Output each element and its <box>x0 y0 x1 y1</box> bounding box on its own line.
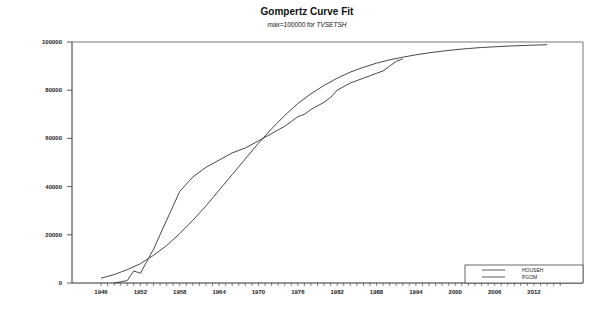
y-tick-label: 0 <box>59 280 63 286</box>
x-tick-label: 1970 <box>252 289 266 295</box>
y-tick-label: 80000 <box>45 87 62 93</box>
legend-label-pgom: PGOM <box>522 274 537 280</box>
x-tick-label: 1994 <box>409 289 423 295</box>
x-tick-label: 1964 <box>212 289 226 295</box>
x-tick-label: 1976 <box>291 289 305 295</box>
x-tick-label: 2000 <box>449 289 463 295</box>
legend-label-househ: HOUSEH <box>522 267 544 273</box>
gompertz-chart: Gompertz Curve Fit max=100000 for TVSETS… <box>0 0 615 309</box>
x-tick-label: 2012 <box>527 289 541 295</box>
y-tick-label: 100000 <box>42 39 63 45</box>
x-tick-label: 2006 <box>488 289 502 295</box>
series-line-househ <box>114 59 403 283</box>
x-tick-label: 1952 <box>134 289 148 295</box>
y-tick-label: 40000 <box>45 184 62 190</box>
axes: 0200004000060000800001000001946195219581… <box>42 39 583 295</box>
x-tick-label: 1946 <box>94 289 108 295</box>
y-tick-label: 20000 <box>45 232 62 238</box>
x-tick-label: 1982 <box>331 289 345 295</box>
x-tick-label: 1988 <box>370 289 384 295</box>
plot-lines <box>101 45 547 283</box>
legend: HOUSEHPGOM <box>465 265 583 283</box>
y-tick-label: 60000 <box>45 135 62 141</box>
series-line-pgom <box>101 45 547 279</box>
chart-subtitle: max=100000 for TVSETSH <box>268 21 347 28</box>
chart-title: Gompertz Curve Fit <box>261 6 354 17</box>
x-tick-label: 1958 <box>173 289 187 295</box>
